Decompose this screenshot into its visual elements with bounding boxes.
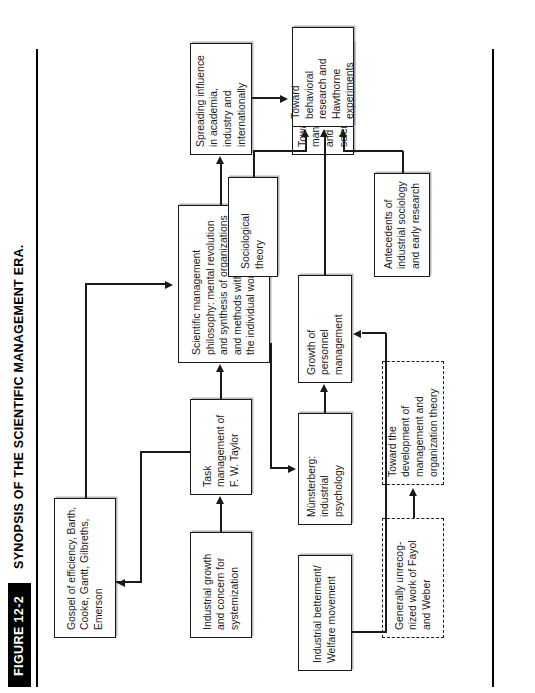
node-spreading-influence: Spreading influence in academia, industr… bbox=[190, 43, 252, 155]
arrow-gospel-to-science bbox=[165, 281, 173, 289]
arrow-science-to-spreading bbox=[216, 156, 224, 164]
node-gospel-of-efficiency: Gospel of efficiency, Barth, Cooke, Gant… bbox=[54, 498, 116, 638]
node-toward-development-label: Toward the development of management and… bbox=[386, 369, 440, 477]
node-toward-behavioral-label: Toward behavioral research and Hawthorne… bbox=[289, 35, 357, 119]
node-antecedents-sociology-label: Antecedents of industrial sociology and … bbox=[382, 181, 423, 269]
connector-task-up-left bbox=[140, 452, 142, 583]
figure-canvas: FIGURE 12-2 SYNOPSIS OF THE SCIENTIFIC M… bbox=[0, 0, 535, 693]
connector-growth-to-behavioral bbox=[324, 136, 326, 275]
arrow-sociological-to-behavioral bbox=[301, 129, 309, 137]
connector-betterment-up bbox=[362, 333, 386, 335]
node-task-management-label: Task management of F. W. Taylor bbox=[201, 407, 242, 487]
node-gospel-of-efficiency-label: Gospel of efficiency, Barth, Cooke, Gant… bbox=[65, 506, 106, 630]
connector-unrecognized-to-development bbox=[413, 496, 415, 518]
node-industrial-growth: Industrial growth and concern for system… bbox=[190, 532, 252, 638]
connector-antecedents-right bbox=[402, 151, 404, 173]
connector-gospel-down bbox=[85, 284, 165, 286]
arrow-task-to-science bbox=[216, 364, 224, 372]
arrow-betterment-to-growth bbox=[353, 330, 361, 338]
node-munsterberg-label: Münsterberg: industrial psychology bbox=[305, 421, 346, 517]
node-spreading-influence-label: Spreading influence in academia, industr… bbox=[194, 51, 248, 147]
node-industrial-betterment: Industrial betterment/ Welfare movement bbox=[298, 555, 352, 671]
arrow-unrecognized-to-development bbox=[409, 488, 417, 496]
connector-growth-to-task bbox=[220, 503, 222, 532]
node-growth-personnel-label: Growth of personnel management bbox=[305, 283, 346, 375]
node-toward-development: Toward the development of management and… bbox=[382, 361, 444, 485]
connector-to-munsterberg bbox=[270, 468, 288, 470]
node-antecedents-sociology: Antecedents of industrial sociology and … bbox=[374, 173, 430, 277]
arrow-munsterberg-to-growth bbox=[320, 384, 328, 392]
figure-header: FIGURE 12-2 SYNOPSIS OF THE SCIENTIFIC M… bbox=[8, 47, 31, 687]
connector-antecedents-up bbox=[343, 151, 403, 153]
connector-sociological-right bbox=[253, 151, 255, 177]
node-growth-personnel: Growth of personnel management bbox=[298, 275, 352, 383]
connector-munsterberg-to-growth bbox=[324, 391, 326, 413]
node-munsterberg: Münsterberg: industrial psychology bbox=[298, 413, 352, 525]
connector-betterment-down bbox=[352, 632, 386, 634]
page-edge-rule bbox=[492, 49, 494, 687]
connector-science-down-left bbox=[270, 343, 272, 469]
node-task-management: Task management of F. W. Taylor bbox=[190, 399, 252, 495]
connector-sociological-to-behavioral bbox=[305, 135, 307, 152]
connector-gospel-stub bbox=[116, 582, 141, 584]
connector-sociological-down bbox=[253, 151, 305, 153]
arrow-growth-to-task bbox=[216, 496, 224, 504]
connector-science-to-spreading bbox=[220, 163, 222, 205]
connector-gospel-right bbox=[85, 284, 87, 498]
connector-antecedents-to-behavioral bbox=[343, 135, 345, 152]
connector-spreading-to-general bbox=[252, 98, 280, 100]
node-industrial-betterment-label: Industrial betterment/ Welfare movement bbox=[311, 563, 338, 663]
node-sociological-theory-label: Sociological theory bbox=[239, 185, 266, 269]
arrow-to-gospel bbox=[117, 579, 125, 587]
arrow-spreading-to-general bbox=[280, 95, 288, 103]
connector-task-to-science bbox=[220, 371, 222, 399]
arrow-science-to-munsterberg bbox=[288, 465, 296, 473]
node-sociological-theory: Sociological theory bbox=[228, 177, 278, 277]
node-industrial-growth-label: Industrial growth and concern for system… bbox=[201, 540, 242, 630]
node-generally-unrecognized: Generally unrecog-nized work of Fayol an… bbox=[382, 518, 444, 638]
connector-task-up bbox=[140, 452, 190, 454]
page-viewport: FIGURE 12-2 SYNOPSIS OF THE SCIENTIFIC M… bbox=[0, 0, 535, 693]
connector-betterment-right bbox=[385, 333, 387, 633]
figure-caption: SYNOPSIS OF THE SCIENTIFIC MANAGEMENT ER… bbox=[8, 244, 31, 582]
header-divider-rule bbox=[36, 49, 38, 687]
arrow-growth-to-behavioral bbox=[320, 129, 328, 137]
arrow-antecedents-to-behavioral bbox=[339, 129, 347, 137]
figure-number-badge: FIGURE 12-2 bbox=[8, 583, 31, 687]
node-toward-behavioral: Toward behavioral research and Hawthorne… bbox=[292, 27, 354, 127]
node-generally-unrecognized-label: Generally unrecog-nized work of Fayol an… bbox=[393, 526, 434, 630]
